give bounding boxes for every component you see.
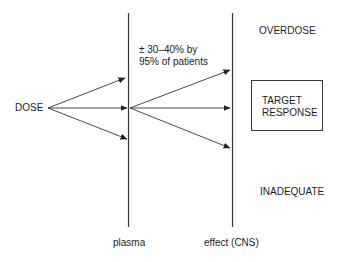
effect-axis-label: effect (CNS) bbox=[204, 237, 259, 249]
variability-annotation-line2: 95% of patients bbox=[139, 56, 208, 68]
target-response-box: TARGET RESPONSE bbox=[251, 80, 323, 131]
plasma-arrow-up bbox=[130, 70, 230, 108]
plasma-arrow-down bbox=[130, 108, 230, 148]
outcome-inadequate: INADEQUATE bbox=[260, 186, 324, 198]
variability-annotation-line1: ± 30–40% by bbox=[139, 44, 197, 56]
dose-label: DOSE bbox=[15, 102, 43, 114]
plasma-axis-label: plasma bbox=[113, 237, 145, 249]
dose-arrow-up bbox=[48, 78, 125, 108]
outcome-target-line1: TARGET bbox=[262, 95, 302, 107]
dose-arrow-down bbox=[48, 108, 127, 139]
outcome-overdose: OVERDOSE bbox=[259, 25, 316, 37]
diagram-canvas bbox=[0, 0, 343, 262]
outcome-target-line2: RESPONSE bbox=[262, 107, 318, 119]
